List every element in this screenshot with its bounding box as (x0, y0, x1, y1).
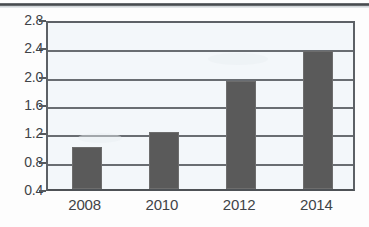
x-axis-label-2010: 2010 (132, 196, 192, 213)
y-axis-tick-0 (39, 20, 46, 22)
bar-2010 (149, 132, 179, 189)
paper-blotch (208, 53, 268, 65)
bar-chart-figure: 2.8 2.4 2.0 1.6 1.2 0.8 0.4 2008 2010 20… (0, 0, 369, 227)
y-axis-tick-2 (39, 77, 46, 79)
y-axis-tick-3 (39, 105, 46, 107)
bar-2008 (72, 147, 102, 190)
y-axis-label-2: 2.0 (9, 69, 43, 85)
y-axis-tick-5 (39, 162, 46, 164)
y-axis-label-3: 1.6 (9, 97, 43, 113)
y-axis-tick-1 (39, 48, 46, 50)
y-axis-label-1: 2.4 (9, 40, 43, 56)
y-axis-label-5: 0.8 (9, 154, 43, 170)
bar-2014 (303, 51, 333, 189)
y-axis-label-0: 2.8 (9, 12, 43, 28)
bar-2012 (226, 81, 256, 189)
y-axis-tick-4 (39, 133, 46, 135)
x-axis-label-2014: 2014 (286, 196, 346, 213)
plot-area (46, 21, 355, 191)
x-axis-label-2008: 2008 (55, 196, 115, 213)
y-axis-tick-6 (39, 190, 46, 192)
x-axis-label-2012: 2012 (209, 196, 269, 213)
y-axis-label-4: 1.2 (9, 125, 43, 141)
y-axis-label-6: 0.4 (9, 182, 43, 198)
